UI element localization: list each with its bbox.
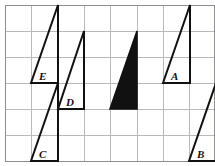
triangle-b-label: B (196, 148, 204, 160)
triangle-c-label: C (39, 148, 47, 160)
triangle-grid-figure: EDCAB (0, 0, 215, 166)
triangle-e-label: E (38, 70, 46, 82)
figure-canvas: EDCAB (0, 0, 215, 166)
triangle-d-label: D (65, 96, 74, 108)
triangle-a-label: A (170, 70, 178, 82)
